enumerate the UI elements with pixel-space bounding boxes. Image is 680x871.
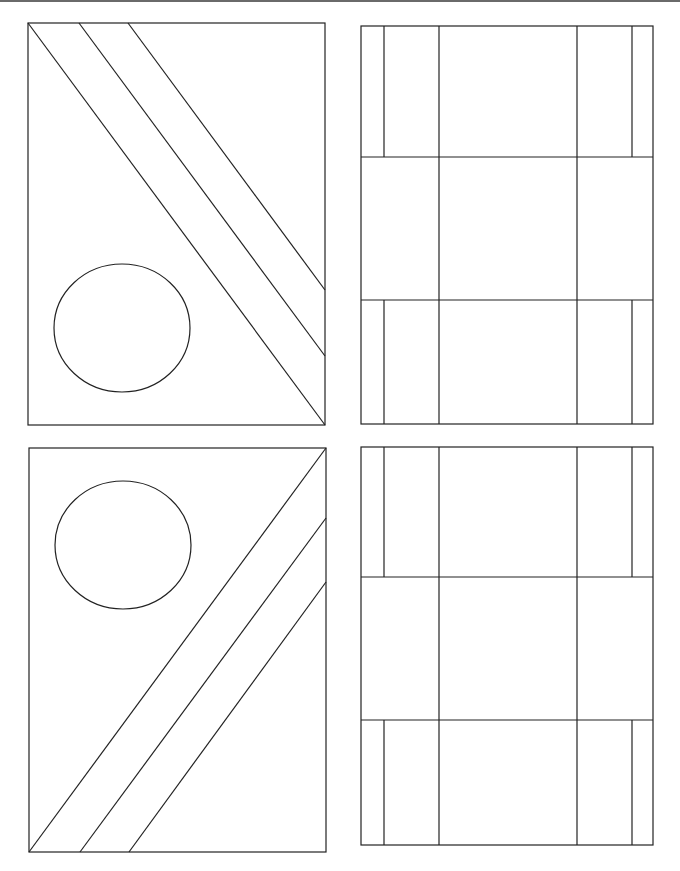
diagonal-line-2 bbox=[79, 23, 325, 356]
diagonal-line-2 bbox=[80, 518, 326, 852]
panel-top-right bbox=[361, 26, 653, 424]
diagonal-line-1 bbox=[29, 448, 326, 852]
panel-frame bbox=[361, 26, 653, 424]
diagonal-line-3 bbox=[128, 23, 325, 290]
pattern-sheet bbox=[0, 0, 680, 871]
diagonal-line-3 bbox=[129, 582, 326, 852]
panel-bottom-right bbox=[361, 447, 653, 845]
panel-frame bbox=[361, 447, 653, 845]
circle-shape bbox=[54, 264, 190, 392]
circle-shape bbox=[55, 481, 191, 609]
diagonal-line-1 bbox=[28, 23, 325, 425]
panel-top-left bbox=[28, 23, 325, 425]
panel-bottom-left bbox=[29, 448, 326, 852]
